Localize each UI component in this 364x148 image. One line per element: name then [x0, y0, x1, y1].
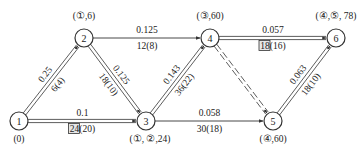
edge-1-2: 0.256(4)	[23, 45, 79, 115]
network-diagram: 0.256(4)0.124(20)0.12512(8)0.12518(10)0.…	[0, 0, 364, 148]
node-annotation: (③,60)	[196, 11, 223, 22]
node-6: 6(④,⑤, 78)	[316, 11, 357, 47]
node-2: 2(①,6)	[73, 11, 95, 47]
edge-rate-label: 0.1	[77, 108, 89, 118]
edge-time-label: 18(16)	[260, 41, 285, 52]
node-label: 1	[17, 116, 22, 127]
node-annotation: (①,6)	[73, 11, 95, 22]
edge-2-3: 0.12518(10)	[88, 44, 141, 114]
node-5: 5(④,60)	[259, 112, 286, 145]
node-annotation: (④,⑤, 78)	[316, 11, 357, 22]
edge-label-group: 0.12518(10)	[96, 62, 133, 98]
edge-5-6: 0.06318(10)	[277, 45, 331, 115]
node-4: 4(③,60)	[196, 11, 223, 47]
node-label: 2	[82, 33, 87, 44]
edge-label-group: 0.124(20)	[69, 108, 96, 135]
edge-4-5	[214, 44, 268, 114]
critical-duration-box: 18	[260, 41, 270, 51]
node-annotation: (④,60)	[259, 134, 286, 145]
edge-time-label: 6(4)	[49, 75, 67, 94]
edge-time-label: 24(20)	[70, 124, 95, 135]
edge-label-group: 0.05718(16)	[259, 25, 286, 52]
edge-rate-label: 0.058	[199, 108, 221, 118]
edge-1-3: 0.124(20)	[28, 108, 136, 135]
edge-time-label: 30(18)	[197, 124, 222, 135]
node-annotation: (0)	[13, 134, 24, 145]
critical-duration-box: 24	[70, 124, 80, 134]
edges-layer: 0.256(4)0.124(20)0.12512(8)0.12518(10)0.…	[23, 25, 331, 135]
edge-label-group: 0.06318(10)	[286, 62, 323, 98]
edge-label-group: 0.12512(8)	[136, 25, 158, 52]
edge-2-4: 0.12512(8)	[93, 25, 200, 52]
edge-rate-label: 0.057	[262, 25, 284, 35]
edge-4-6: 0.05718(16)	[219, 25, 326, 52]
edge-3-4: 0.14336(22)	[150, 45, 205, 115]
network-graph: 0.256(4)0.124(20)0.12512(8)0.12518(10)0.…	[0, 0, 364, 148]
node-label: 3	[144, 116, 149, 127]
edge-label-group: 0.05830(18)	[197, 108, 222, 135]
edge-time-label: 12(8)	[137, 41, 158, 52]
node-label: 6	[334, 33, 339, 44]
node-3: 3(①, ②,24)	[130, 112, 171, 145]
node-label: 5	[271, 116, 276, 127]
node-1: 1(0)	[10, 112, 28, 145]
node-label: 4	[208, 33, 213, 44]
edge-rate-label: 0.125	[136, 25, 158, 35]
node-annotation: (①, ②,24)	[130, 134, 171, 145]
edge-3-5: 0.05830(18)	[155, 108, 263, 135]
